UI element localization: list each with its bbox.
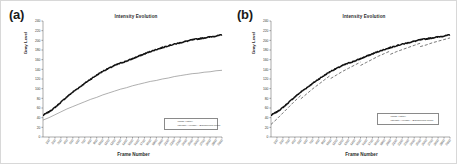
y-tick-label: 20 <box>265 126 269 130</box>
y-tick-label: 80 <box>265 97 269 101</box>
y-tick-label: 180 <box>35 48 41 52</box>
plot-svg-a: 020406080100120140160180200220240 100200… <box>1 1 229 163</box>
model-segment <box>271 95 301 124</box>
series-line-model-b <box>271 38 450 125</box>
series-line-observed-a <box>43 35 222 115</box>
y-tick-label: 100 <box>263 87 269 91</box>
plot-area-b: 020406080100120140160180200220240 100200… <box>229 1 457 163</box>
series-line-observed-b <box>271 35 450 115</box>
plot-svg-b: 020406080100120140160180200220240 100200… <box>229 1 457 163</box>
y-tick-label: 220 <box>35 29 41 33</box>
legend-item: Intensity Average + Background Model <box>167 124 215 128</box>
legend-label-model: Intensity Average + Background Model <box>391 119 434 123</box>
y-tick-label: 160 <box>263 58 269 62</box>
y-tick-label: 180 <box>263 48 269 52</box>
y-tick-label: 0 <box>267 135 269 139</box>
y-tick-label: 200 <box>35 39 41 43</box>
y-tick-label: 240 <box>35 19 41 23</box>
y-tick-label: 240 <box>263 19 269 23</box>
plot-area-a: 020406080100120140160180200220240 100200… <box>1 1 229 163</box>
x-axis-group-b: 1002003004005006007008009001000110012001… <box>273 137 453 146</box>
panel-b: (b) Intensity Evolution Gray Level Frame… <box>229 1 457 163</box>
y-tick-label: 0 <box>39 135 41 139</box>
y-tick-label: 140 <box>35 68 41 72</box>
y-tick-label: 200 <box>263 39 269 43</box>
legend-a: Image History Intensity Average + Backgr… <box>164 118 218 130</box>
y-tick-label: 120 <box>263 77 269 81</box>
y-tick-label: 160 <box>35 58 41 62</box>
y-tick-label: 40 <box>265 116 269 120</box>
y-tick-label: 100 <box>35 87 41 91</box>
y-tick-label: 60 <box>37 106 41 110</box>
y-tick-label: 120 <box>35 77 41 81</box>
x-tick-label: 3000 <box>216 138 224 146</box>
y-axis-group-b: 020406080100120140160180200220240 <box>263 19 271 139</box>
x-tick-label: 3000 <box>444 138 452 146</box>
y-tick-label: 220 <box>263 29 269 33</box>
legend-label-model: Intensity Average + Background Model <box>178 124 221 128</box>
figure-container: (a) Intensity Evolution Gray Level Frame… <box>0 0 457 164</box>
y-tick-label: 40 <box>37 116 41 120</box>
x-axis-group-a: 1002003004005006007008009001000110012001… <box>45 137 225 146</box>
legend-b: Image History Intensity Average + Backgr… <box>377 113 439 125</box>
model-segment <box>390 43 420 54</box>
y-tick-label: 20 <box>37 126 41 130</box>
y-tick-label: 80 <box>37 97 41 101</box>
y-tick-label: 140 <box>263 68 269 72</box>
legend-item: Intensity Average + Background Model <box>380 119 436 123</box>
series-line-model-a <box>43 70 222 120</box>
panel-a: (a) Intensity Evolution Gray Level Frame… <box>1 1 229 163</box>
y-axis-group-a: 020406080100120140160180200220240 <box>35 19 43 139</box>
model-segment <box>301 75 331 99</box>
y-tick-label: 60 <box>265 106 269 110</box>
